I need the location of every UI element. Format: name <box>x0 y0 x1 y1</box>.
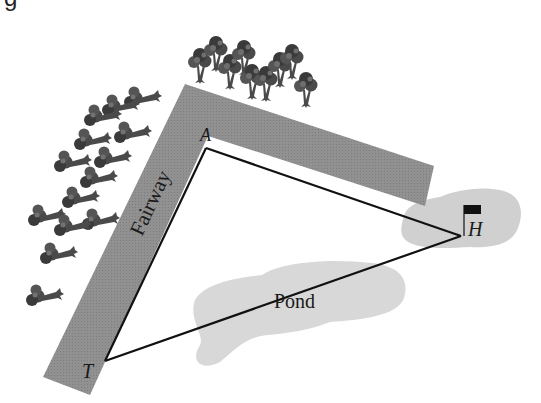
pond-label: Pond <box>274 290 315 312</box>
diagram-canvas: A H T Pond Fairway <box>0 0 541 403</box>
clipped-header-text: g <box>4 0 17 12</box>
vertex-label-h: H <box>467 218 484 240</box>
vertex-label-t: T <box>82 360 95 382</box>
golf-diagram: g <box>0 0 541 403</box>
pond-shape <box>193 261 405 366</box>
vertex-label-a: A <box>199 125 212 145</box>
fairway-shape <box>43 84 434 395</box>
